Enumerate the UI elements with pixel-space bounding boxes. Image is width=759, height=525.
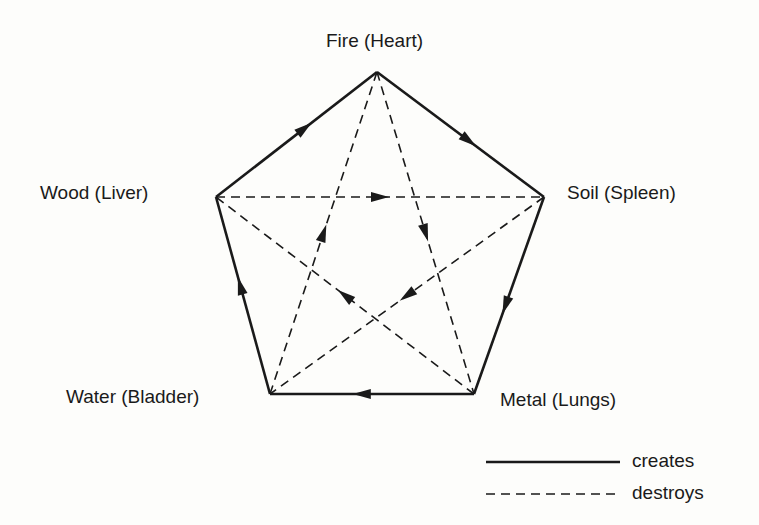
arrowhead-icon (418, 223, 433, 243)
arrowhead-icon (397, 286, 417, 305)
arrowhead-icon (353, 389, 371, 399)
legend-destroys-label: destroys (632, 482, 704, 504)
node-label-soil: Soil (Spleen) (567, 182, 676, 204)
arrowhead-icon (335, 286, 355, 305)
node-label-fire: Fire (Heart) (326, 30, 423, 52)
node-label-wood: Wood (Liver) (40, 182, 148, 204)
creates-edge-soil-metal (474, 197, 544, 394)
node-label-water: Water (Bladder) (66, 386, 199, 408)
arrowhead-icon (316, 223, 331, 243)
arrowhead-icon (498, 295, 513, 315)
creates-edge-fire-soil (377, 72, 544, 197)
creates-edge-wood-fire (216, 72, 377, 197)
creates-edge-water-wood (216, 197, 270, 394)
node-label-metal: Metal (Lungs) (500, 389, 616, 411)
arrowhead-icon (371, 192, 389, 202)
five-elements-diagram (0, 0, 759, 525)
legend-creates-label: creates (632, 450, 694, 472)
arrowhead-icon (233, 276, 247, 296)
